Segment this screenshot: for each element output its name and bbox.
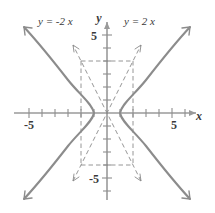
hyperbola-plot: x y -5 5 5 -5 y = -2 x y = 2 x [0,0,215,213]
left-asymptote-equation-label: y = -2 x [37,15,73,27]
x-tick-label-negative-5: -5 [24,118,34,132]
x-axis-label: x [195,109,202,123]
y-tick-label-positive-5: 5 [91,29,97,43]
asymptote-2x-lower-arrow-icon [73,174,79,181]
y-tick-label-negative-5: -5 [89,172,99,186]
asymptote-minus2x-lower-arrow-icon [135,174,141,181]
x-axis-arrow-icon [189,110,196,116]
hyperbola-figure: x y -5 5 5 -5 y = -2 x y = 2 x [0,0,215,213]
right-asymptote-equation-label: y = 2 x [123,15,155,27]
x-tick-label-positive-5: 5 [171,118,177,132]
y-axis-arrow-icon [104,22,110,29]
y-axis-label: y [94,11,102,25]
